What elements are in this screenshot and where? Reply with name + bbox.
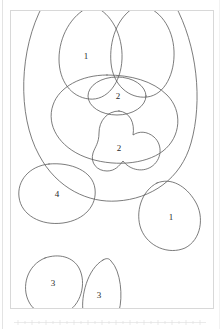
label-oval-top-left: 1	[84, 51, 89, 61]
oval-wide-middle	[51, 75, 178, 163]
oval-bottom-right	[83, 259, 121, 308]
label-oval-right-outside: 1	[169, 212, 174, 222]
scale-strip-ticks	[14, 320, 206, 325]
oval-top-right	[111, 11, 174, 97]
label-oval-left-outside: 4	[55, 189, 60, 199]
figure-frame: 1 2 2 4 1 3 3	[10, 10, 214, 309]
page-right-rule	[219, 0, 220, 329]
scale-strip	[14, 320, 206, 325]
label-oval-bottom-left: 3	[51, 278, 56, 288]
outer-boundary-circle	[24, 11, 197, 201]
figure-canvas: 1 2 2 4 1 3 3	[11, 11, 213, 308]
page-shell: 1 2 2 4 1 3 3	[0, 0, 223, 329]
label-blob-lower-center: 2	[117, 143, 122, 153]
oval-grouping-drawing: 1 2 2 4 1 3 3	[11, 11, 213, 308]
label-oval-bottom-right: 3	[97, 290, 102, 300]
label-oval-small-center: 2	[116, 91, 121, 101]
page-left-rule	[2, 0, 3, 329]
